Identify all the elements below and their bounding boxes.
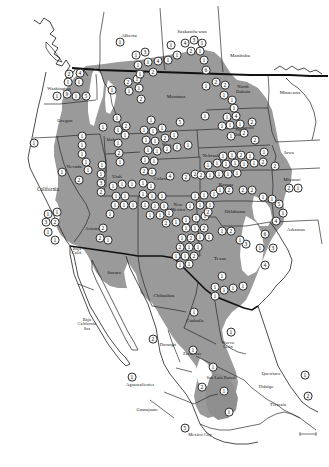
locality-marker: 1 [191, 224, 200, 233]
locality-marker: 1 [231, 159, 240, 168]
border-jal-mich [150, 400, 174, 418]
locality-marker: 1 [75, 78, 84, 87]
locality-marker: 1 [139, 190, 148, 199]
locality-marker: 2 [97, 188, 106, 197]
locality-marker: 2 [212, 78, 221, 87]
locality-marker: 2 [198, 383, 207, 392]
locality-marker: 1 [112, 192, 121, 201]
locality-marker: 1 [200, 56, 209, 65]
locality-marker: 2 [122, 122, 131, 131]
locality-marker: 1 [148, 192, 157, 201]
locality-marker: 1 [30, 139, 39, 148]
locality-marker: 1 [149, 127, 158, 136]
locality-marker: 2 [271, 162, 280, 171]
locality-marker: 2 [248, 118, 257, 127]
border-mex-south [200, 424, 260, 430]
locality-marker: 1 [224, 170, 233, 179]
border-gto-mich [164, 392, 194, 404]
locality-marker: 1 [211, 283, 220, 292]
locality-marker: 2 [124, 78, 133, 87]
locality-marker: 1 [189, 346, 198, 355]
locality-marker: 6 [261, 230, 270, 239]
locality-marker: 1 [200, 191, 209, 200]
locality-marker: 2 [251, 136, 260, 145]
locality-marker: 1 [216, 186, 225, 195]
locality-marker: 1 [132, 51, 141, 60]
locality-marker: 1 [218, 272, 227, 281]
locality-marker: 1 [170, 131, 179, 140]
locality-marker: 1 [176, 261, 185, 270]
locality-marker: 1 [184, 141, 193, 150]
border-nd-mn [268, 74, 269, 108]
locality-marker: 2 [285, 184, 294, 193]
locality-marker: 2 [248, 186, 257, 195]
locality-marker: 3 [269, 244, 278, 253]
locality-marker: 1 [206, 171, 215, 180]
locality-marker: 2 [99, 224, 108, 233]
locality-marker: 2 [187, 47, 196, 56]
locality-marker: 1 [150, 157, 159, 166]
locality-marker: 1 [146, 211, 155, 220]
locality-marker: 1 [186, 202, 195, 211]
locality-marker: 1 [233, 169, 242, 178]
locality-marker: 1 [220, 387, 229, 396]
locality-marker: 1 [151, 137, 160, 146]
locality-marker: 1 [250, 159, 259, 168]
locality-marker: 1 [114, 139, 123, 148]
locality-marker: 1 [172, 218, 181, 227]
locality-marker: 1 [53, 92, 62, 101]
locality-marker: 1 [165, 209, 174, 218]
locality-marker: 1 [209, 363, 218, 372]
border-lake-of-woods [274, 66, 322, 74]
locality-marker: 9 [63, 90, 72, 99]
border-mn-lakes [286, 78, 316, 140]
locality-marker: 3 [141, 48, 150, 57]
locality-marker: 2 [149, 335, 158, 344]
locality-marker: 1 [164, 56, 173, 65]
locality-marker: 4 [76, 69, 85, 78]
locality-marker: 1 [220, 286, 229, 295]
locality-marker: 1 [240, 160, 249, 169]
locality-marker: 1 [84, 166, 93, 175]
locality-marker: 1 [196, 47, 205, 56]
locality-marker: 1 [226, 121, 235, 130]
border-mex-southeast [260, 412, 316, 430]
locality-marker: 5 [176, 118, 185, 127]
locality-marker: 1 [196, 201, 205, 210]
locality-marker: 1 [78, 141, 87, 150]
distribution-map-figure: AlbertaSaskatchewanManitobaWashingtonOre… [0, 0, 329, 467]
locality-marker: 1 [140, 126, 149, 135]
locality-marker: 2 [137, 95, 146, 104]
locality-marker: 2 [51, 218, 60, 227]
locality-marker: 2 [259, 158, 268, 167]
locality-marker: 1 [121, 192, 130, 201]
locality-marker: 1 [218, 227, 227, 236]
locality-marker: 1 [141, 201, 150, 210]
locality-marker: 1 [192, 214, 201, 223]
locality-marker: 1 [239, 282, 248, 291]
locality-marker: 5 [275, 200, 284, 209]
locality-marker: 1 [218, 122, 227, 131]
locality-marker: 1 [259, 193, 268, 202]
locality-marker: 1 [194, 243, 203, 252]
locality-marker: 1 [58, 168, 67, 177]
border-ags-zac [176, 368, 192, 372]
border-bc-ab [99, 12, 104, 70]
locality-marker: 1 [196, 233, 205, 242]
locality-marker: 1 [158, 124, 167, 133]
locality-marker: 1 [136, 70, 145, 79]
locality-marker: 1 [144, 146, 153, 155]
locality-marker: 1 [167, 41, 176, 50]
locality-marker: 1 [64, 78, 73, 87]
locality-marker: 1 [256, 244, 265, 253]
locality-marker: 1 [229, 284, 238, 293]
locality-marker: 1 [147, 116, 156, 125]
locality-marker: 1 [111, 201, 120, 210]
scale-mark [300, 432, 316, 436]
locality-marker: 2 [225, 186, 234, 195]
locality-marker: 1 [173, 143, 182, 152]
locality-marker: 4 [272, 217, 281, 226]
locality-marker: 1 [148, 168, 157, 177]
locality-marker: 1 [204, 161, 213, 170]
locality-marker: 2 [237, 151, 246, 160]
